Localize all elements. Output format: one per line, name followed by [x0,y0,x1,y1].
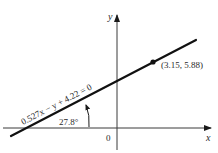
x-axis-label: x [205,132,211,143]
diagram-canvas: y x 0 (3.15, 5.88) 27.8° 0.527x − y + 4.… [0,0,218,153]
origin-label: 0 [106,133,111,143]
y-axis-label: y [107,11,113,22]
angle-arc-icon [86,105,89,127]
point-marker [150,59,155,64]
equation-label: 0.527x − y + 4.22 = 0 [19,82,93,127]
point-label: (3.15, 5.88) [161,60,203,70]
equation-line [11,40,196,136]
angle-label: 27.8° [59,117,79,127]
